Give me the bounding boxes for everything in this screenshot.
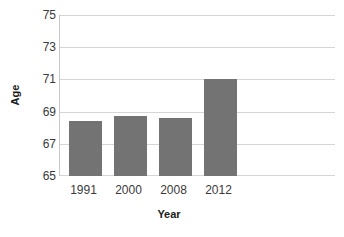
bar-1991[interactable] [69,121,102,176]
bar-2008[interactable] [159,118,192,176]
x-tick-label-2012: 2012 [196,183,241,197]
bar-2000[interactable] [114,116,147,176]
plot-area [59,15,335,176]
bar-2012[interactable] [204,79,237,176]
x-axis-tick-labels: 1991 2000 2008 2012 [59,183,334,203]
bars-layer [60,15,335,176]
bar-chart-figure: Age 75 73 71 69 67 65 1991 2000 2008 201… [0,0,344,237]
x-tick-label-2000: 2000 [106,183,151,197]
y-tick-label-67: 67 [16,138,56,150]
y-tick-label-71: 71 [16,73,56,85]
x-tick-label-2008: 2008 [151,183,196,197]
x-tick-label-1991: 1991 [61,183,106,197]
y-tick-label-65: 65 [16,170,56,182]
y-tick-label-69: 69 [16,106,56,118]
x-axis-title: Year [59,208,279,220]
y-tick-label-75: 75 [16,9,56,21]
y-tick-label-73: 73 [16,41,56,53]
y-axis-tick-labels: 75 73 71 69 67 65 [12,0,56,237]
